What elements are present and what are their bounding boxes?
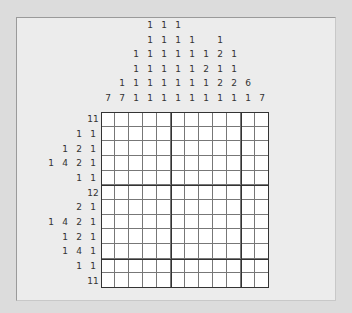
grid-cell[interactable]	[255, 127, 269, 142]
grid-cell[interactable]	[241, 229, 255, 244]
grid-cell[interactable]	[213, 229, 227, 244]
grid-cell[interactable]	[101, 215, 115, 230]
grid-cell[interactable]	[199, 185, 213, 200]
grid-cell[interactable]	[143, 185, 157, 200]
grid-cell[interactable]	[199, 200, 213, 215]
grid-cell[interactable]	[241, 259, 255, 274]
grid-cell[interactable]	[129, 127, 143, 142]
grid-cell[interactable]	[129, 244, 143, 259]
grid-cell[interactable]	[213, 112, 227, 127]
grid-cell[interactable]	[241, 185, 255, 200]
grid-cell[interactable]	[101, 127, 115, 142]
grid-cell[interactable]	[143, 127, 157, 142]
grid-cell[interactable]	[227, 215, 241, 230]
grid-cell[interactable]	[171, 215, 185, 230]
grid-cell[interactable]	[129, 171, 143, 186]
grid-cell[interactable]	[185, 244, 199, 259]
grid-cell[interactable]	[157, 273, 171, 288]
grid-cell[interactable]	[171, 171, 185, 186]
grid-cell[interactable]	[227, 171, 241, 186]
grid-cell[interactable]	[143, 244, 157, 259]
grid-cell[interactable]	[227, 273, 241, 288]
grid-cell[interactable]	[227, 259, 241, 274]
grid-cell[interactable]	[255, 200, 269, 215]
grid-cell[interactable]	[157, 127, 171, 142]
grid-cell[interactable]	[157, 244, 171, 259]
grid-cell[interactable]	[199, 141, 213, 156]
grid-cell[interactable]	[199, 244, 213, 259]
grid-cell[interactable]	[185, 127, 199, 142]
grid-cell[interactable]	[171, 200, 185, 215]
grid-cell[interactable]	[115, 156, 129, 171]
grid-cell[interactable]	[129, 141, 143, 156]
grid-cell[interactable]	[129, 259, 143, 274]
grid-cell[interactable]	[129, 273, 143, 288]
grid-cell[interactable]	[255, 185, 269, 200]
grid-cell[interactable]	[143, 215, 157, 230]
puzzle-grid[interactable]	[101, 112, 269, 288]
grid-cell[interactable]	[241, 141, 255, 156]
grid-cell[interactable]	[115, 127, 129, 142]
grid-cell[interactable]	[185, 112, 199, 127]
grid-cell[interactable]	[171, 259, 185, 274]
grid-cell[interactable]	[129, 156, 143, 171]
grid-cell[interactable]	[171, 229, 185, 244]
grid-cell[interactable]	[143, 141, 157, 156]
grid-cell[interactable]	[227, 185, 241, 200]
grid-cell[interactable]	[171, 244, 185, 259]
grid-cell[interactable]	[143, 156, 157, 171]
grid-cell[interactable]	[115, 229, 129, 244]
grid-cell[interactable]	[199, 112, 213, 127]
grid-cell[interactable]	[213, 200, 227, 215]
grid-cell[interactable]	[157, 259, 171, 274]
grid-cell[interactable]	[241, 112, 255, 127]
grid-cell[interactable]	[241, 215, 255, 230]
grid-cell[interactable]	[199, 156, 213, 171]
grid-cell[interactable]	[185, 156, 199, 171]
grid-cell[interactable]	[241, 200, 255, 215]
grid-cell[interactable]	[185, 185, 199, 200]
grid-cell[interactable]	[115, 141, 129, 156]
grid-cell[interactable]	[157, 215, 171, 230]
grid-cell[interactable]	[101, 112, 115, 127]
grid-cell[interactable]	[227, 141, 241, 156]
grid-cell[interactable]	[101, 244, 115, 259]
grid-cell[interactable]	[241, 244, 255, 259]
grid-cell[interactable]	[199, 259, 213, 274]
grid-cell[interactable]	[199, 171, 213, 186]
grid-cell[interactable]	[129, 200, 143, 215]
grid-cell[interactable]	[157, 141, 171, 156]
grid-cell[interactable]	[115, 200, 129, 215]
grid-cell[interactable]	[199, 229, 213, 244]
grid-cell[interactable]	[101, 156, 115, 171]
grid-cell[interactable]	[199, 127, 213, 142]
grid-cell[interactable]	[227, 244, 241, 259]
grid-cell[interactable]	[171, 127, 185, 142]
grid-cell[interactable]	[241, 273, 255, 288]
grid-cell[interactable]	[157, 112, 171, 127]
grid-cell[interactable]	[171, 273, 185, 288]
grid-cell[interactable]	[143, 171, 157, 186]
grid-cell[interactable]	[129, 215, 143, 230]
grid-cell[interactable]	[115, 244, 129, 259]
grid-cell[interactable]	[171, 156, 185, 171]
grid-cell[interactable]	[185, 200, 199, 215]
grid-cell[interactable]	[157, 156, 171, 171]
grid-cell[interactable]	[101, 171, 115, 186]
grid-cell[interactable]	[255, 171, 269, 186]
grid-cell[interactable]	[143, 259, 157, 274]
grid-cell[interactable]	[241, 127, 255, 142]
grid-cell[interactable]	[157, 185, 171, 200]
grid-cell[interactable]	[143, 112, 157, 127]
grid-cell[interactable]	[143, 200, 157, 215]
grid-cell[interactable]	[255, 141, 269, 156]
grid-cell[interactable]	[115, 215, 129, 230]
grid-cell[interactable]	[185, 273, 199, 288]
grid-cell[interactable]	[227, 200, 241, 215]
grid-cell[interactable]	[157, 200, 171, 215]
grid-cell[interactable]	[255, 259, 269, 274]
grid-cell[interactable]	[115, 171, 129, 186]
grid-cell[interactable]	[115, 112, 129, 127]
grid-cell[interactable]	[255, 229, 269, 244]
grid-cell[interactable]	[199, 215, 213, 230]
